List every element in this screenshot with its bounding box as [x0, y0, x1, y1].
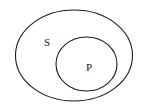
euler-diagram-canvas: S P — [0, 0, 149, 112]
set-label-s: S — [44, 36, 50, 48]
set-outline-outer-s — [16, 10, 133, 101]
set-label-p: P — [86, 61, 92, 73]
euler-diagram-svg: S P — [0, 0, 149, 112]
